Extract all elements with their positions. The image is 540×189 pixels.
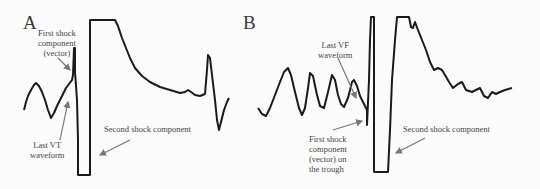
panel-b-label: B [243, 12, 256, 34]
arrow-second-shock-b [396, 138, 425, 153]
arrow-first-shock-b [333, 121, 362, 130]
arrow-second-shock-a [100, 140, 130, 155]
annotation-second-shock-a: Second shock component [104, 124, 191, 134]
panel-a-label: A [23, 12, 37, 34]
arrow-first-shock-a [58, 58, 70, 70]
arrow-last-vf-b [338, 58, 356, 98]
arrow-last-vt-a [60, 102, 68, 140]
annotation-first-shock-a: First shock component (vector) [38, 28, 76, 58]
waveform-plot [0, 0, 540, 189]
annotation-second-shock-b: Second shock component [403, 124, 490, 134]
panel-b-trace [258, 17, 512, 172]
annotation-first-shock-b: First shock component (vector) on the tr… [309, 134, 347, 174]
annotation-last-vt-a: Last VT waveform [30, 140, 64, 160]
annotation-last-vf-b: Last VF waveform [318, 40, 352, 60]
figure: A First shock component (vector) Last VT… [0, 0, 540, 189]
